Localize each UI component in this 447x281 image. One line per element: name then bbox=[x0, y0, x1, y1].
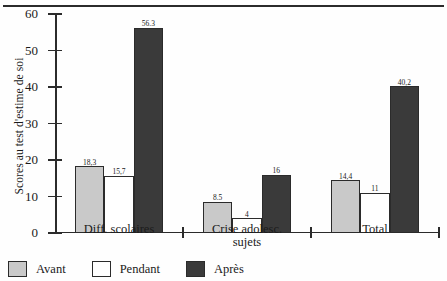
category-label-2: Crise adolesc.sujets bbox=[212, 223, 282, 249]
bar-avant-group3: 14,4 bbox=[331, 180, 360, 233]
bar-value-label: 8.5 bbox=[213, 194, 222, 202]
plot-area: 0102030405060 18,315,756.38.541614,41140… bbox=[55, 14, 439, 233]
bar-value-label: 11 bbox=[371, 185, 378, 193]
category-label-3: Total bbox=[362, 223, 388, 236]
bar-value-label: 40,2 bbox=[398, 79, 411, 87]
y-tick-label-40: 40 bbox=[25, 80, 38, 93]
category-label-line: Diff. scolaires bbox=[84, 223, 155, 236]
group-separator-2 bbox=[310, 227, 312, 238]
legend-swatch-avant bbox=[8, 261, 27, 277]
y-tick-40: 40 bbox=[48, 86, 62, 88]
bar-value-label: 18,3 bbox=[83, 159, 96, 167]
y-axis-title: Scores au test d'estime de soi bbox=[13, 11, 25, 241]
chart-legend: Avant Pendant Après bbox=[8, 261, 270, 277]
bar-aprs-group3: 40,2 bbox=[390, 86, 419, 233]
y-tick-label-50: 50 bbox=[25, 43, 38, 56]
y-tick-20: 20 bbox=[48, 159, 62, 161]
y-tick-60: 60 bbox=[48, 13, 62, 15]
category-label-1: Diff. scolaires bbox=[84, 223, 155, 236]
group-separator-3 bbox=[438, 227, 440, 238]
y-tick-label-30: 30 bbox=[25, 116, 38, 129]
top-divider-rule bbox=[3, 5, 444, 7]
y-tick-10: 10 bbox=[48, 196, 62, 198]
y-tick-0: 0 bbox=[48, 232, 62, 234]
y-tick-label-20: 20 bbox=[25, 153, 38, 166]
legend-label-apres: Après bbox=[214, 262, 244, 277]
group-separator-1 bbox=[182, 227, 184, 238]
category-label-line: Total bbox=[362, 223, 388, 236]
bar-value-label: 16 bbox=[273, 167, 281, 175]
legend-swatch-pendant bbox=[92, 261, 111, 277]
legend-label-pendant: Pendant bbox=[120, 262, 160, 277]
legend-item-avant: Avant bbox=[8, 261, 92, 277]
y-tick-50: 50 bbox=[48, 50, 62, 52]
legend-item-apres: Après bbox=[186, 261, 270, 277]
y-tick-label-60: 60 bbox=[25, 7, 38, 20]
chart-figure: Scores au test d'estime de soi 010203040… bbox=[0, 0, 447, 281]
bar-value-label: 56.3 bbox=[142, 20, 155, 28]
category-label-line: sujets bbox=[212, 236, 282, 249]
legend-swatch-apres bbox=[186, 261, 205, 277]
y-tick-label-0: 0 bbox=[32, 226, 39, 239]
bar-aprs-group1: 56.3 bbox=[134, 28, 163, 233]
bar-value-label: 15,7 bbox=[112, 168, 125, 176]
y-tick-30: 30 bbox=[48, 123, 62, 125]
legend-item-pendant: Pendant bbox=[92, 261, 186, 277]
y-tick-label-10: 10 bbox=[25, 189, 38, 202]
bar-value-label: 14,4 bbox=[339, 173, 352, 181]
bar-value-label: 4 bbox=[245, 211, 249, 219]
legend-label-avant: Avant bbox=[36, 262, 66, 277]
